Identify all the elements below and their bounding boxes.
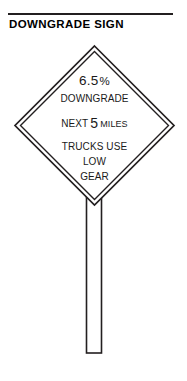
sign-post: [87, 196, 102, 353]
sign-inner-border: [21, 52, 169, 200]
sign-illustration: [0, 0, 187, 381]
downgrade-sign-diagram: 6.5% DOWNGRADE NEXT5MILES TRUCKS USE LOW…: [0, 0, 187, 381]
